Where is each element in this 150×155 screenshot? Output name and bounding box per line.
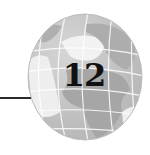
chapter-number: 12 — [60, 58, 108, 92]
